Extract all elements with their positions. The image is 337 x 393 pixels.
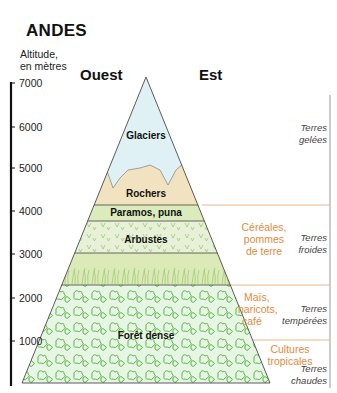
zone-froides-line2: froides [298, 244, 327, 256]
label-glaciers: Glaciers [116, 130, 176, 141]
label-foret-dense: Forêt dense [106, 330, 186, 341]
y-axis-label: Altitude, en mètres [20, 48, 67, 72]
label-east: Est [199, 66, 222, 83]
zone-gelees-line1: Terres [299, 122, 327, 134]
y-axis-label-line2: en mètres [20, 60, 67, 72]
y-axis-label-line1: Altitude, [20, 48, 67, 60]
crop-tropicales-line1: Cultures [258, 343, 322, 355]
crop-mais-line1: Maïs, [238, 291, 290, 303]
diagram-title: ANDES [26, 21, 87, 41]
zone-terres-temperees: Terres tempérées [282, 303, 327, 327]
label-west: Ouest [80, 66, 123, 83]
zone-terres-gelees: Terres gelées [299, 122, 327, 146]
zone-terres-froides: Terres froides [298, 232, 327, 256]
zone-gelees-line2: gelées [299, 134, 327, 146]
tick-6000: 6000 [19, 121, 42, 133]
zone-froides-line1: Terres [298, 232, 327, 244]
tick-3000: 3000 [19, 248, 42, 260]
tick-5000: 5000 [19, 162, 42, 174]
layer-grass [0, 253, 337, 285]
tick-2000: 2000 [19, 292, 42, 304]
crop-cereales-line2: pommes [232, 233, 296, 245]
zone-temperees-line1: Terres [282, 303, 327, 315]
label-arbustes: Arbustes [106, 234, 186, 245]
crop-cereales: Céréales, pommes de terre [232, 221, 296, 257]
label-rochers: Rochers [116, 188, 176, 199]
zone-chaudes-line1: Terres [291, 363, 327, 375]
tick-4000: 4000 [19, 205, 42, 217]
tick-1000: 1000 [19, 335, 42, 347]
zone-temperees-line2: tempérées [282, 315, 327, 327]
zone-terres-chaudes: Terres chaudes [291, 363, 327, 387]
crop-cereales-line1: Céréales, [232, 221, 296, 233]
crop-cereales-line3: de terre [232, 245, 296, 257]
tick-7000: 7000 [19, 77, 42, 89]
zone-chaudes-line2: chaudes [291, 375, 327, 387]
label-paramos: Paramos, puna [96, 207, 196, 218]
